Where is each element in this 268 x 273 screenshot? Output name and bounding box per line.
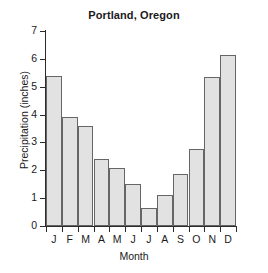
- x-axis-label: Month: [0, 250, 268, 262]
- bar-september: [173, 174, 189, 226]
- y-tick-label: 0: [22, 220, 37, 231]
- x-tick-label: M: [78, 233, 94, 246]
- x-tick-mark: [141, 227, 142, 232]
- y-tick-label: 3: [22, 136, 37, 147]
- x-tick-mark: [173, 227, 174, 232]
- bar-april: [94, 159, 110, 226]
- chart-title: Portland, Oregon: [0, 9, 268, 21]
- x-tick-label: J: [46, 233, 62, 246]
- bar-january: [46, 76, 62, 226]
- x-tick-label: F: [62, 233, 78, 246]
- bar-february: [62, 117, 78, 226]
- x-tick-mark: [78, 227, 79, 232]
- x-tick-mark: [62, 227, 63, 232]
- x-tick-label: M: [109, 233, 125, 246]
- x-tick-label: N: [204, 233, 220, 246]
- y-tick-label: 5: [22, 81, 37, 92]
- x-tick-mark: [220, 227, 221, 232]
- x-tick-mark: [94, 227, 95, 232]
- x-tick-label: O: [189, 233, 205, 246]
- x-tick-mark: [46, 227, 47, 232]
- x-tick-mark: [236, 227, 237, 232]
- bar-august: [157, 195, 173, 226]
- y-tick-label: 2: [22, 164, 37, 175]
- bar-december: [220, 55, 236, 226]
- x-tick-label: A: [157, 233, 173, 246]
- y-tick-label: 6: [22, 53, 37, 64]
- bar-june: [125, 184, 141, 226]
- x-tick-label: J: [125, 233, 141, 246]
- x-tick-mark: [189, 227, 190, 232]
- x-tick-label: A: [94, 233, 110, 246]
- plot-area: [46, 31, 236, 226]
- bar-october: [189, 149, 205, 226]
- y-tick-label: 4: [22, 109, 37, 120]
- y-tick-label: 7: [22, 25, 37, 36]
- bar-may: [109, 168, 125, 227]
- x-tick-mark: [125, 227, 126, 232]
- bar-march: [78, 126, 94, 226]
- x-tick-label: S: [173, 233, 189, 246]
- x-tick-mark: [109, 227, 110, 232]
- x-tick-mark: [157, 227, 158, 232]
- bar-july: [141, 208, 157, 226]
- y-tick-label: 1: [22, 192, 37, 203]
- x-tick-label: D: [220, 233, 236, 246]
- x-tick-label: J: [141, 233, 157, 246]
- bar-november: [204, 77, 220, 226]
- precipitation-bar-chart: Portland, Oregon Precipitation (inches) …: [0, 0, 268, 273]
- x-tick-mark: [204, 227, 205, 232]
